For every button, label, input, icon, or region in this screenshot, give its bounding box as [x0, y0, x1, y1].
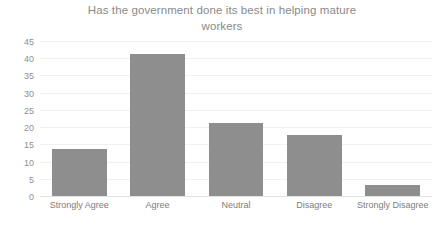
y-axis-tick-label: 30 [24, 89, 34, 98]
y-axis-tick-label: 35 [24, 72, 34, 81]
y-axis-tick-label: 5 [29, 175, 34, 184]
y-axis-tick-label: 15 [24, 141, 34, 150]
bar[interactable] [209, 123, 264, 197]
x-axis-tick-label: Disagree [275, 200, 353, 211]
x-axis-tick-label: Agree [118, 200, 196, 211]
x-axis-tick-label: Neutral [197, 200, 275, 211]
x-axis-line [40, 196, 432, 197]
x-axis-tick-label: Strongly Disagree [354, 200, 432, 211]
x-axis: Strongly AgreeAgreeNeutralDisagreeStrong… [40, 200, 432, 220]
y-axis-tick-label: 40 [24, 55, 34, 64]
y-axis-tick-label: 45 [24, 38, 34, 47]
y-axis-tick-label: 0 [29, 193, 34, 202]
y-axis-tick-label: 20 [24, 124, 34, 133]
bar-slot [118, 42, 196, 197]
bar[interactable] [52, 149, 107, 197]
bar-slot [354, 42, 432, 197]
bar[interactable] [130, 54, 185, 197]
x-axis-tick-label: Strongly Agree [40, 200, 118, 211]
y-axis-tick-label: 25 [24, 106, 34, 115]
plot-area [40, 42, 432, 197]
bar-slot [275, 42, 353, 197]
bar-slot [197, 42, 275, 197]
chart-title: Has the government done its best in help… [50, 2, 394, 34]
bar-chart: Has the government done its best in help… [0, 0, 444, 225]
bar[interactable] [287, 135, 342, 197]
y-axis-tick-label: 10 [24, 158, 34, 167]
y-axis: 051015202530354045 [0, 42, 34, 197]
bar-slot [40, 42, 118, 197]
